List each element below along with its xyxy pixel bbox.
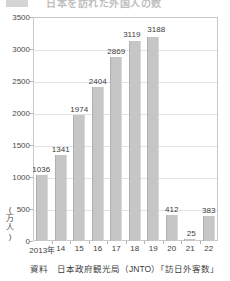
y-axis-tick-mark <box>30 49 33 50</box>
x-axis-tick-label: 14 <box>56 244 65 253</box>
bar-value-label: 3119 <box>123 30 140 39</box>
x-axis-tick-label: 19 <box>149 244 158 253</box>
y-axis-tick-label: 3500 <box>0 13 30 22</box>
x-axis-tick-mark <box>52 241 53 244</box>
bar <box>73 115 85 241</box>
x-axis-tick-label: 18 <box>130 244 139 253</box>
y-axis-tick-mark <box>30 209 33 210</box>
x-axis-tick-mark <box>181 241 182 244</box>
bar <box>147 37 159 241</box>
bar-value-label: 1974 <box>70 105 88 114</box>
y-axis-unit-label: (万人) <box>3 205 17 241</box>
bar-chart: 0500100015002000250030003500 (万人) 103613… <box>0 0 230 281</box>
x-axis-tick-mark <box>163 241 164 244</box>
x-axis-tick-label: 16 <box>93 244 102 253</box>
x-axis-tick-mark <box>126 241 127 244</box>
bar <box>36 175 48 241</box>
y-axis-unit-char: 人 <box>3 223 17 232</box>
x-axis-tick-mark <box>200 241 201 244</box>
bar-value-label: 2404 <box>89 77 107 86</box>
x-axis-tick-label: 17 <box>112 244 121 253</box>
y-axis-tick-mark <box>30 145 33 146</box>
bar <box>129 41 141 241</box>
x-axis-tick-label: 15 <box>75 244 84 253</box>
bar <box>55 155 67 241</box>
bar-value-label: 412 <box>165 205 178 214</box>
y-axis-tick-mark <box>30 17 33 18</box>
x-axis-tick-label: 2013年 <box>29 244 55 255</box>
y-axis-tick-mark <box>30 81 33 82</box>
bar-value-label: 2869 <box>107 47 125 56</box>
gridline <box>34 114 217 115</box>
bar <box>166 215 178 241</box>
bar-value-label: 3188 <box>147 25 165 34</box>
y-axis-unit-char: ( <box>3 205 17 214</box>
bar <box>184 239 196 241</box>
bar <box>203 216 215 241</box>
x-axis-tick-label: 20 <box>167 244 176 253</box>
x-axis-tick-label: 21 <box>186 244 195 253</box>
x-axis-tick-label: 22 <box>204 244 213 253</box>
bar <box>92 87 104 241</box>
y-axis-unit-char: ) <box>3 232 17 241</box>
source-note: 資料 日本政府観光局（JNTO）「訪日外客数」 <box>30 262 219 274</box>
y-axis-unit-char: 万 <box>3 214 17 223</box>
y-axis-tick-label: 1000 <box>0 173 30 182</box>
y-axis-tick-label: 1500 <box>0 141 30 150</box>
y-axis-tick-label: 3000 <box>0 45 30 54</box>
gridline <box>34 50 217 51</box>
gridline <box>34 82 217 83</box>
bar-value-label: 25 <box>187 229 196 238</box>
y-axis-tick-mark <box>30 177 33 178</box>
y-axis-tick-label: 2500 <box>0 77 30 86</box>
bar-value-label: 1036 <box>32 165 50 174</box>
x-axis-tick-mark <box>144 241 145 244</box>
x-axis-tick-mark <box>89 241 90 244</box>
bar <box>110 57 122 241</box>
x-axis-tick-mark <box>70 241 71 244</box>
bar-value-label: 383 <box>202 206 215 215</box>
y-axis-tick-mark <box>30 241 33 242</box>
x-axis-tick-mark <box>107 241 108 244</box>
y-axis-tick-label: 2000 <box>0 109 30 118</box>
bar-value-label: 1341 <box>52 145 70 154</box>
y-axis-tick-mark <box>30 113 33 114</box>
